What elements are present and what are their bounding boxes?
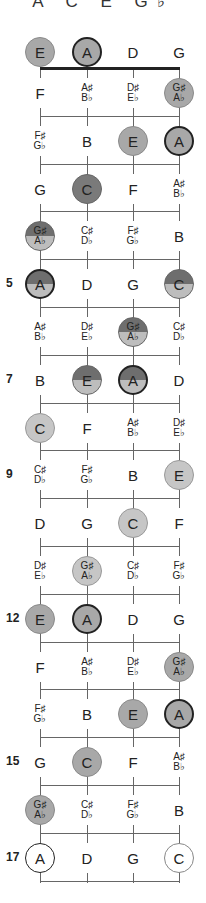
fret-line bbox=[40, 164, 180, 165]
fret-line bbox=[40, 211, 180, 212]
note-enharmonic: G♭ bbox=[34, 141, 47, 151]
note-name: E bbox=[128, 134, 138, 149]
note-enharmonic: G♭ bbox=[173, 571, 186, 581]
note-label: A♯B♭ bbox=[118, 413, 148, 443]
note-enharmonic: A♭ bbox=[34, 236, 46, 246]
chord-tone-marker: E bbox=[25, 37, 55, 67]
note-name: F bbox=[174, 516, 183, 531]
note-enharmonic: A♭ bbox=[173, 93, 185, 103]
fret-line bbox=[40, 498, 180, 499]
note-label: G bbox=[118, 269, 148, 299]
chord-tone-marker: C bbox=[72, 747, 102, 777]
fret-number: 9 bbox=[6, 467, 24, 481]
note-name: A bbox=[82, 45, 92, 60]
note-label: D♯E♭ bbox=[118, 78, 148, 108]
fret-line bbox=[40, 450, 180, 451]
note-enharmonic: D♭ bbox=[173, 332, 185, 342]
note-label: D bbox=[25, 508, 55, 538]
note-label: D bbox=[164, 365, 194, 395]
note-name: A bbox=[128, 373, 138, 388]
note-name: G bbox=[173, 45, 185, 60]
chord-title: A C E G♭ bbox=[0, 0, 206, 12]
note-label: B bbox=[118, 460, 148, 490]
note-enharmonic: B♭ bbox=[173, 762, 185, 772]
chord-tone-marker: G♯A♭ bbox=[164, 78, 194, 108]
note-name: B bbox=[82, 707, 92, 722]
chord-tone-marker: G♯A♭ bbox=[164, 652, 194, 682]
note-name: B bbox=[174, 803, 184, 818]
note-label: F bbox=[164, 508, 194, 538]
note-name: A bbox=[35, 851, 45, 866]
note-label: B bbox=[164, 795, 194, 825]
fret-line bbox=[40, 116, 180, 117]
fret-line bbox=[40, 546, 180, 547]
note-enharmonic: E♭ bbox=[127, 667, 139, 677]
fret-line bbox=[40, 307, 180, 308]
note-name: G bbox=[81, 516, 93, 531]
chord-tone-marker: E bbox=[72, 365, 102, 395]
chord-tone-marker: C bbox=[25, 413, 55, 443]
note-name: G bbox=[127, 277, 139, 292]
note-name: C bbox=[82, 755, 93, 770]
note-name: A bbox=[174, 134, 184, 149]
fret-line bbox=[40, 737, 180, 738]
fret-line bbox=[40, 259, 180, 260]
chord-tone-marker: G♯A♭ bbox=[118, 317, 148, 347]
note-name: D bbox=[174, 373, 185, 388]
note-enharmonic: A♭ bbox=[34, 810, 46, 820]
note-enharmonic: D♭ bbox=[34, 475, 46, 485]
note-label: G bbox=[118, 843, 148, 873]
note-enharmonic: G♭ bbox=[34, 714, 47, 724]
note-label: D bbox=[72, 843, 102, 873]
note-enharmonic: G♭ bbox=[127, 236, 140, 246]
note-label: B bbox=[25, 365, 55, 395]
chord-tone-marker: A bbox=[25, 269, 55, 299]
note-name: F bbox=[128, 755, 137, 770]
note-label: A♯B♭ bbox=[72, 78, 102, 108]
note-enharmonic: G♭ bbox=[127, 810, 140, 820]
note-label: F bbox=[25, 652, 55, 682]
chord-tone-marker: C bbox=[164, 843, 194, 873]
note-enharmonic: A♭ bbox=[173, 667, 185, 677]
note-label: F♯G♭ bbox=[25, 126, 55, 156]
note-name: C bbox=[35, 421, 46, 436]
fret-line bbox=[40, 881, 180, 882]
note-label: D♯E♭ bbox=[164, 413, 194, 443]
note-name: G bbox=[34, 182, 46, 197]
note-name: B bbox=[35, 373, 45, 388]
note-label: C♯D♭ bbox=[118, 556, 148, 586]
note-enharmonic: A♭ bbox=[81, 571, 93, 581]
note-enharmonic: A♭ bbox=[127, 332, 139, 342]
fret-line bbox=[40, 689, 180, 690]
chord-tone-marker: A bbox=[164, 126, 194, 156]
note-label: C♯D♭ bbox=[25, 460, 55, 490]
note-label: B bbox=[164, 221, 194, 251]
note-enharmonic: B♭ bbox=[34, 332, 46, 342]
fret-line bbox=[40, 785, 180, 786]
chord-tone-marker: G♯A♭ bbox=[25, 221, 55, 251]
note-enharmonic: D♭ bbox=[81, 810, 93, 820]
note-label: A♯B♭ bbox=[25, 317, 55, 347]
note-enharmonic: B♭ bbox=[81, 667, 93, 677]
fret-line bbox=[40, 355, 180, 356]
note-enharmonic: G♭ bbox=[81, 475, 94, 485]
note-label: F bbox=[118, 174, 148, 204]
note-label: F♯G♭ bbox=[118, 795, 148, 825]
fret-line bbox=[40, 833, 180, 834]
chord-tone-marker: A bbox=[72, 37, 102, 67]
note-label: F♯G♭ bbox=[164, 556, 194, 586]
fret-number: 12 bbox=[6, 611, 24, 625]
note-label: D♯E♭ bbox=[72, 317, 102, 347]
chord-tone-marker: E bbox=[25, 604, 55, 634]
note-label: F♯G♭ bbox=[118, 221, 148, 251]
note-enharmonic: B♭ bbox=[81, 93, 93, 103]
fret-number: 5 bbox=[6, 276, 24, 290]
note-name: G bbox=[34, 755, 46, 770]
note-name: F bbox=[35, 660, 44, 675]
note-label: A♯B♭ bbox=[72, 652, 102, 682]
note-label: D bbox=[118, 37, 148, 67]
chord-tone-marker: E bbox=[164, 460, 194, 490]
note-name: D bbox=[128, 45, 139, 60]
note-enharmonic: E♭ bbox=[173, 428, 185, 438]
note-name: E bbox=[82, 373, 92, 388]
